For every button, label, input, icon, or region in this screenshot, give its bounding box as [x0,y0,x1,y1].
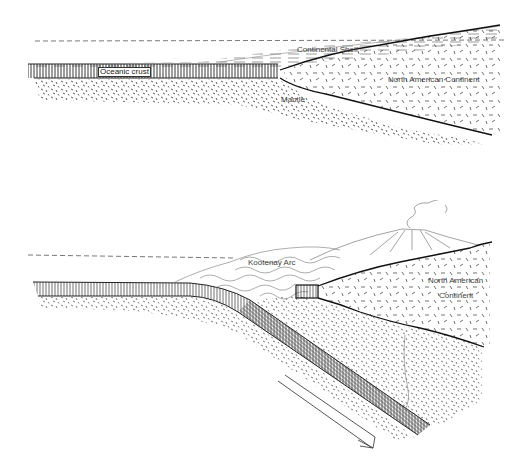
accreted-block [296,285,318,298]
bottom-cross-section: Kootenay Arc North American Continent [0,200,508,476]
top-cross-section-drawing [0,0,508,200]
bottom-cross-section-drawing [0,200,508,476]
continent-label: Continent [439,292,473,300]
volcanic-plume [407,200,442,228]
oceanic-crust-label: Oceanic crust [98,67,151,77]
top-cross-section: Oceanic crust Continental Shelf North Am… [0,0,508,200]
sea-level-line [28,255,235,258]
kootenay-arc-label: Kootenay Arc [248,259,296,267]
mantle-label: Mantle [281,96,305,104]
continental-shelf-label: Continental Shelf [297,46,358,54]
north-american-continent-label: North American Continent [388,76,480,84]
north-american-label: North American [428,277,483,285]
